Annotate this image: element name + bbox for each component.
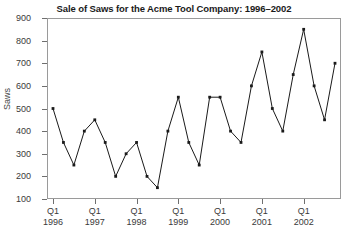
x-tick-year: 2000 — [197, 217, 243, 228]
series-polyline — [53, 29, 335, 187]
y-tick-label: 800 — [0, 36, 31, 46]
y-tick-label: 700 — [0, 58, 31, 68]
x-tick-year: 2002 — [281, 217, 327, 228]
x-tick-label: Q11997 — [72, 206, 118, 228]
data-point — [250, 84, 253, 87]
x-tick-year: 1999 — [155, 217, 201, 228]
data-point — [62, 141, 65, 144]
x-tick-quarter: Q1 — [197, 206, 243, 217]
plot-area: 100200300400500600700800900 Q11996Q11997… — [47, 18, 341, 199]
x-tick-year: 2001 — [239, 217, 285, 228]
x-tick-quarter: Q1 — [114, 206, 160, 217]
x-tick-mark — [304, 199, 305, 204]
data-point — [260, 51, 263, 54]
x-tick-quarter: Q1 — [155, 206, 201, 217]
series-line-saws — [47, 18, 341, 199]
chart-container: Sale of Saws for the Acme Tool Company: … — [0, 0, 348, 245]
x-tick-mark — [95, 199, 96, 204]
data-point — [240, 141, 243, 144]
y-tick-label: 200 — [0, 171, 31, 181]
data-point — [292, 73, 295, 76]
data-point — [146, 175, 149, 178]
x-tick-quarter: Q1 — [281, 206, 327, 217]
y-tick-label: 100 — [0, 194, 31, 204]
data-point — [135, 141, 138, 144]
x-tick-mark — [220, 199, 221, 204]
data-point — [313, 84, 316, 87]
data-point — [229, 130, 232, 133]
data-point — [281, 130, 284, 133]
x-tick-quarter: Q1 — [239, 206, 285, 217]
series-markers — [52, 28, 337, 189]
data-point — [93, 118, 96, 121]
data-point — [72, 164, 75, 167]
data-point — [177, 96, 180, 99]
data-point — [104, 141, 107, 144]
y-tick-label: 600 — [0, 81, 31, 91]
x-tick-label: Q11998 — [114, 206, 160, 228]
x-tick-label: Q11996 — [30, 206, 76, 228]
data-point — [83, 130, 86, 133]
y-tick-label: 500 — [0, 104, 31, 114]
data-point — [125, 152, 128, 155]
data-point — [219, 96, 222, 99]
data-point — [166, 130, 169, 133]
y-tick-mark — [42, 199, 47, 200]
x-tick-mark — [137, 199, 138, 204]
data-point — [208, 96, 211, 99]
x-tick-year: 1997 — [72, 217, 118, 228]
data-point — [302, 28, 305, 31]
x-tick-mark — [262, 199, 263, 204]
x-tick-label: Q11999 — [155, 206, 201, 228]
data-point — [52, 107, 55, 110]
x-tick-year: 1998 — [114, 217, 160, 228]
x-tick-label: Q12002 — [281, 206, 327, 228]
data-point — [187, 141, 190, 144]
x-tick-quarter: Q1 — [72, 206, 118, 217]
data-point — [334, 62, 337, 65]
data-point — [271, 107, 274, 110]
data-point — [156, 186, 159, 189]
x-tick-mark — [178, 199, 179, 204]
x-tick-label: Q12000 — [197, 206, 243, 228]
y-tick-label: 400 — [0, 126, 31, 136]
y-tick-label: 300 — [0, 149, 31, 159]
x-tick-mark — [53, 199, 54, 204]
data-point — [114, 175, 117, 178]
x-tick-label: Q12001 — [239, 206, 285, 228]
data-point — [323, 118, 326, 121]
data-point — [198, 164, 201, 167]
x-tick-quarter: Q1 — [30, 206, 76, 217]
y-tick-label: 900 — [0, 13, 31, 23]
x-tick-year: 1996 — [30, 217, 76, 228]
chart-title: Sale of Saws for the Acme Tool Company: … — [0, 3, 348, 14]
